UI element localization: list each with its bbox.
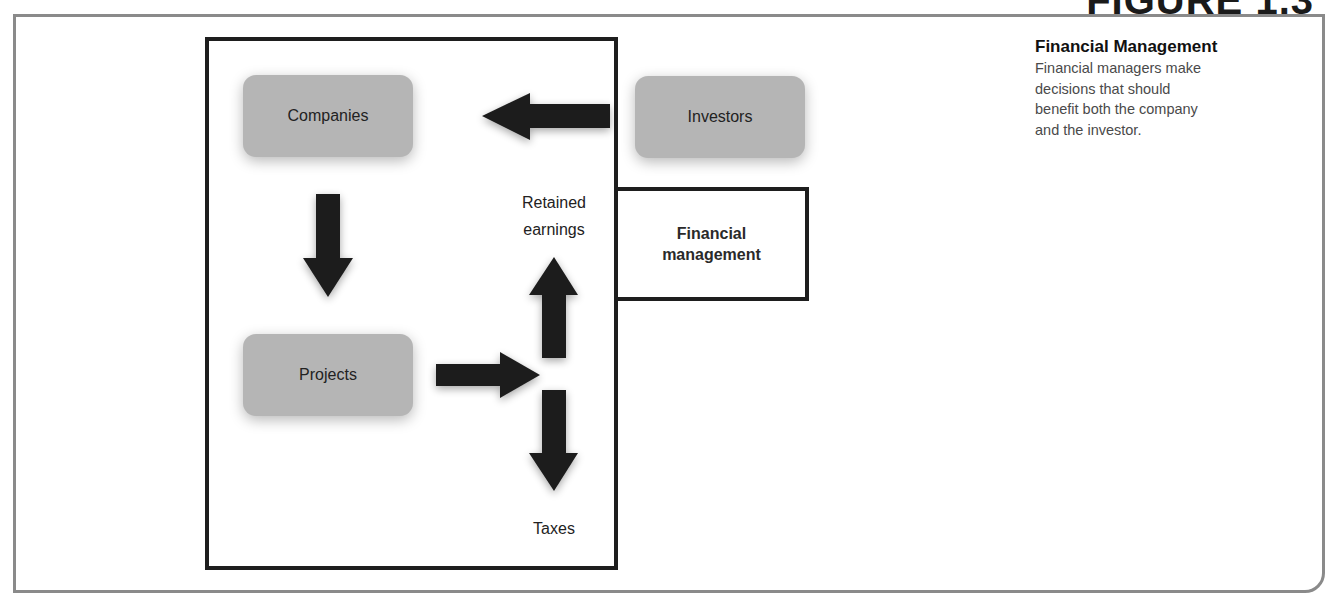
arrow-right-icon [436, 352, 540, 398]
caption-body: Financial managers make decisions that s… [1035, 58, 1215, 140]
arrow-up-icon [529, 257, 578, 358]
arrow-down-taxes-icon [529, 390, 578, 491]
arrow-down-icon [303, 194, 353, 297]
arrow-left-icon [482, 93, 610, 140]
figure-caption: Financial Management Financial managers … [1035, 36, 1305, 140]
caption-title: Financial Management [1035, 36, 1305, 58]
